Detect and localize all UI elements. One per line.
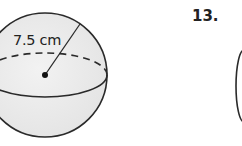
center-point — [42, 72, 48, 78]
problem-number: 13. — [192, 7, 219, 25]
radius-label: 7.5 cm — [13, 32, 61, 48]
next-figure-partial-circle — [236, 50, 242, 122]
